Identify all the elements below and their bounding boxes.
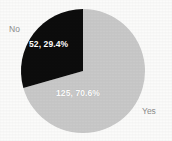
pie-slice-label-no: 52, 29.4% [29, 39, 68, 49]
pie-slice-label-yes: 125, 70.6% [56, 88, 100, 98]
pie-chart-figure: 52, 29.4% 125, 70.6% No Yes [0, 0, 172, 141]
pie-category-label-yes: Yes [142, 106, 156, 116]
chart-plot-area: 52, 29.4% 125, 70.6% No Yes [0, 0, 172, 141]
pie-category-label-no: No [9, 24, 20, 34]
pie-chart-svg [0, 0, 172, 141]
